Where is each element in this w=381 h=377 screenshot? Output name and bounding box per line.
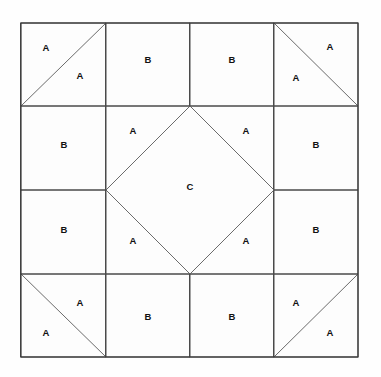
patch-label-edge-right-lower: B xyxy=(312,224,319,235)
patch-label-corner-tr-lower: A xyxy=(292,72,299,83)
quilt-block-canvas: A A B B A A B A A B C B A A B A A B B A … xyxy=(0,0,381,377)
patch-label-center-tri-bl: A xyxy=(129,235,136,246)
patch-label-corner-tl-lower: A xyxy=(76,70,83,81)
patch-label-center-tri-tl: A xyxy=(129,125,136,136)
patch-label-corner-br-lower: A xyxy=(326,327,333,338)
patch-label-center-diamond: C xyxy=(186,181,193,192)
patch-label-center-tri-br: A xyxy=(242,235,249,246)
patch-label-corner-br-upper: A xyxy=(292,297,299,308)
patch-label-edge-top-right: B xyxy=(228,54,235,65)
patch-label-corner-bl-upper: A xyxy=(76,297,83,308)
patch-label-corner-tl-upper: A xyxy=(42,42,49,53)
patch-label-edge-bottom-left: B xyxy=(144,311,151,322)
patch-label-corner-bl-lower: A xyxy=(42,327,49,338)
quilt-block-diagram: A A B B A A B A A B C B A A B A A B B A … xyxy=(0,0,381,377)
patch-label-center-tri-tr: A xyxy=(242,125,249,136)
patch-label-edge-bottom-right: B xyxy=(228,311,235,322)
patch-label-corner-tr-upper: A xyxy=(326,41,333,52)
patch-label-edge-left-upper: B xyxy=(60,139,67,150)
patch-label-edge-right-upper: B xyxy=(312,139,319,150)
patch-label-edge-top-left: B xyxy=(144,54,151,65)
patch-label-edge-left-lower: B xyxy=(60,224,67,235)
